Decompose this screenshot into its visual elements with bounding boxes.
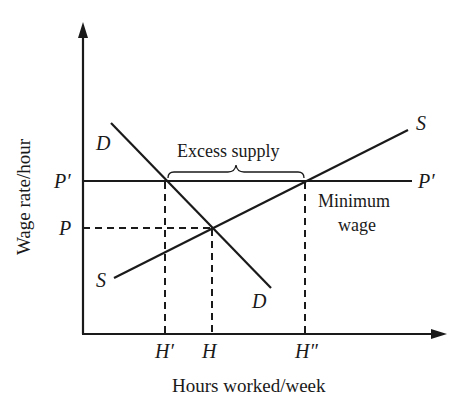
y-axis-title: Wage rate/hour: [13, 138, 34, 255]
minimum-wage-label-line2: wage: [338, 215, 376, 235]
excess-supply-label: Excess supply: [177, 141, 280, 161]
x-axis-arrow-icon: [431, 329, 447, 339]
minimum-wage-diagram: D D S S P′ P P′ H′ H H″ Excess supply Mi…: [0, 0, 456, 402]
excess-supply-brace: [168, 165, 304, 178]
y-axis-arrow-icon: [78, 22, 88, 38]
x-axis-title: Hours worked/week: [172, 375, 326, 396]
x-axis: [82, 329, 447, 339]
y-axis: [78, 22, 88, 334]
minimum-wage-label-line1: Minimum: [318, 191, 390, 211]
p-prime-right-label: P′: [417, 170, 435, 192]
h-label: H: [201, 340, 218, 362]
supply-label-top: S: [416, 112, 426, 134]
demand-label-top: D: [95, 132, 111, 154]
h-prime-label: H′: [154, 340, 174, 362]
p-label: P: [58, 217, 71, 239]
h-double-prime-label: H″: [294, 340, 318, 362]
demand-label-bottom: D: [251, 290, 267, 312]
supply-label-bottom: S: [96, 269, 106, 291]
p-prime-label: P′: [53, 170, 71, 192]
